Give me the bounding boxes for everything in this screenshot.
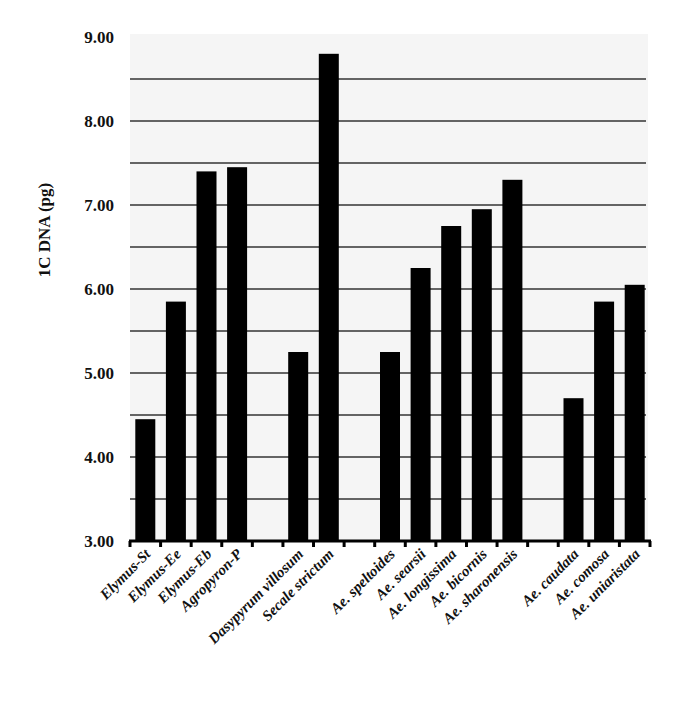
bar: [380, 352, 400, 541]
bar: [625, 285, 645, 541]
bar: [472, 209, 492, 541]
bar: [288, 352, 308, 541]
x-axis: [129, 541, 651, 547]
bar: [319, 54, 339, 541]
bar: [502, 180, 522, 541]
bar: [197, 171, 217, 541]
bar: [135, 419, 155, 541]
bar-chart: 3.004.005.006.007.008.009.00 Elymus-StEl…: [0, 0, 678, 703]
y-tick-label: 3.00: [84, 532, 114, 551]
bar: [411, 268, 431, 541]
y-tick-label: 4.00: [84, 448, 114, 467]
y-tick-label: 8.00: [84, 112, 114, 131]
y-tick-label: 6.00: [84, 280, 114, 299]
bar: [441, 226, 461, 541]
y-tick-label: 7.00: [84, 196, 114, 215]
x-axis-tick-labels: Elymus-StElymus-EeElymus-EbAgropyron-PDa…: [96, 545, 643, 647]
bar: [594, 302, 614, 541]
bar: [564, 398, 584, 541]
y-axis-tick-labels: 3.004.005.006.007.008.009.00: [84, 28, 114, 551]
bar: [227, 167, 247, 541]
y-axis-title: 1C DNA (pg): [35, 183, 54, 277]
y-tick-label: 5.00: [84, 364, 114, 383]
y-tick-label: 9.00: [84, 28, 114, 47]
bar: [166, 302, 186, 541]
